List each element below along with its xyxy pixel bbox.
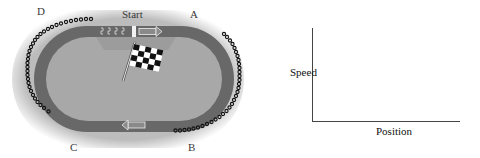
y-axis-label: Speed: [290, 67, 312, 78]
start-line: [132, 26, 136, 37]
race-track-illustration: [0, 0, 250, 158]
x-axis-label: Position: [376, 126, 412, 137]
corner-label-d: D: [37, 6, 45, 17]
x-axis: [312, 121, 460, 122]
start-label: Start: [122, 9, 143, 20]
corner-label-a: A: [190, 9, 198, 20]
corner-label-b: B: [188, 142, 195, 153]
corner-label-c: C: [70, 142, 77, 153]
speed-position-graph: Speed Position: [250, 0, 480, 158]
race-track-diagram: D Start A C B: [0, 0, 250, 158]
